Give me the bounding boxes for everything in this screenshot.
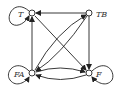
node-FA bbox=[29, 70, 35, 76]
edge-FA-to-F bbox=[36, 68, 85, 72]
node-TB bbox=[86, 10, 92, 16]
node-label-T: T bbox=[18, 10, 24, 19]
graph-diagram: T TB FA F bbox=[0, 0, 122, 90]
node-T bbox=[29, 10, 35, 16]
edge-F-to-FA bbox=[36, 75, 86, 80]
node-F bbox=[86, 70, 92, 76]
node-label-TB: TB bbox=[96, 10, 107, 19]
node-label-FA: FA bbox=[13, 70, 25, 79]
edge-T-to-F bbox=[35, 16, 86, 70]
node-label-F: F bbox=[95, 70, 102, 79]
